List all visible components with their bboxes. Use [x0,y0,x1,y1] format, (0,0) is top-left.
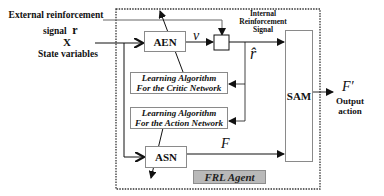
x-symbol: X [63,36,71,48]
F-prime-label: F′ [342,79,354,95]
frl-agent-label: FRL Agent [193,170,266,184]
output-line2: action [330,106,370,116]
internal-line3: Signal [238,26,288,34]
state-to-asn-line [124,43,144,157]
junction-node [214,35,229,50]
critic-line2: For the Critic Network [137,83,222,93]
signal-text: signal [43,26,67,36]
critic-learning-block: Learning Algorithm For the Critic Networ… [130,72,228,94]
signal-label: signal r [43,23,77,38]
r-symbol: r [72,23,77,37]
action-line1: Learning Algorithm [142,108,216,118]
output-action-label: Output action [330,96,370,116]
critic-line1: Learning Algorithm [142,73,216,83]
asn-block: ASN [145,146,187,168]
aen-block: AEN [144,31,186,52]
internal-reinforcement-label: Internal Reinforcement Signal [238,10,288,34]
r-hat-label: r̂ [250,45,256,63]
output-line1: Output [330,96,370,106]
r-hat-feedback-critic [229,42,245,84]
v-label: v [193,28,199,44]
r-hat-feedback-action [229,84,245,121]
F-label: F [221,136,230,152]
action-line2: For the Action Network [135,118,223,128]
action-learning-block: Learning Algorithm For the Action Networ… [130,107,228,129]
sam-block: SAM [285,30,313,162]
state-variables-label: State variables [38,49,98,59]
external-reinforcement-label: External reinforcement [0,10,112,20]
